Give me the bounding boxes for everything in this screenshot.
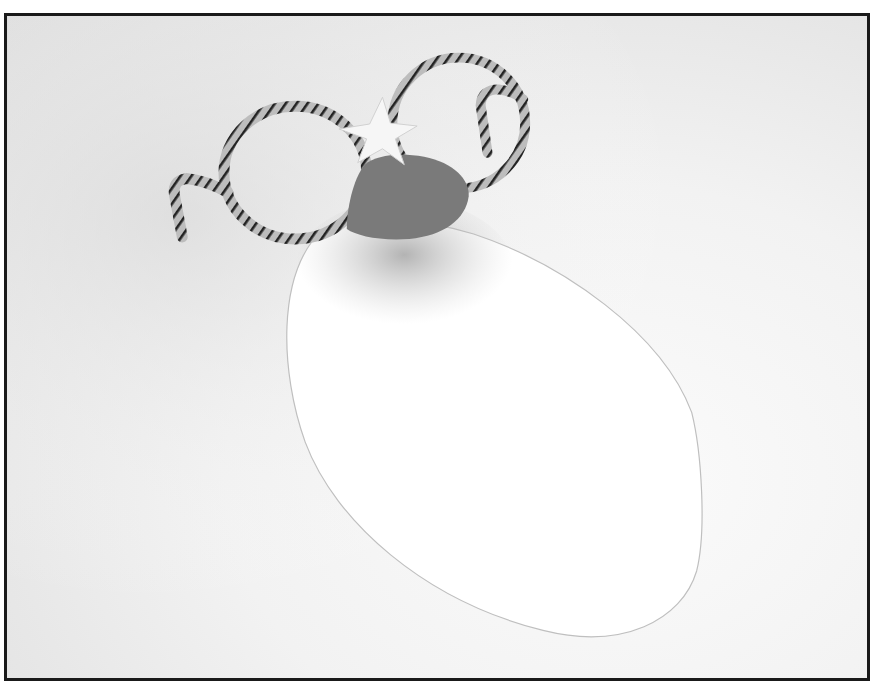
photo-frame	[4, 13, 870, 681]
craft-photo	[7, 16, 867, 678]
